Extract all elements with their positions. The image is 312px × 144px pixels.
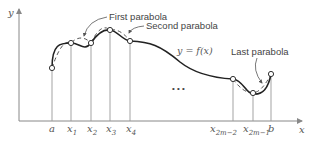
x-axis-label: x xyxy=(299,124,305,135)
tick-labels: a x1 x2 x3 x4 x2m−2 x2m−1 b xyxy=(49,123,274,137)
curve-label: y = f(x) xyxy=(176,45,213,56)
svg-text:b: b xyxy=(268,123,274,134)
ordinates xyxy=(52,30,271,121)
sample-points xyxy=(49,27,273,95)
y-axis-label: y xyxy=(7,7,14,18)
second-parabola-arrow xyxy=(129,26,144,33)
function-curve xyxy=(52,30,271,94)
last-parabola-arrow xyxy=(255,58,262,83)
svg-text:x1: x1 xyxy=(67,123,77,137)
ellipsis: • • • xyxy=(172,84,185,93)
svg-text:x2m−2: x2m−2 xyxy=(210,123,238,137)
svg-text:x4: x4 xyxy=(126,123,136,137)
first-parabola-arrow xyxy=(84,17,107,36)
svg-text:a: a xyxy=(49,123,55,134)
svg-text:x2: x2 xyxy=(87,123,98,137)
svg-text:x2m−1: x2m−1 xyxy=(243,123,270,137)
parabola-approximations xyxy=(52,28,271,93)
simpsons-rule-diagram: y x First parabola Second parabola Last … xyxy=(0,0,312,144)
last-parabola-label: Last parabola xyxy=(231,46,289,57)
second-parabola-label: Second parabola xyxy=(146,20,219,31)
svg-text:x3: x3 xyxy=(106,123,117,137)
